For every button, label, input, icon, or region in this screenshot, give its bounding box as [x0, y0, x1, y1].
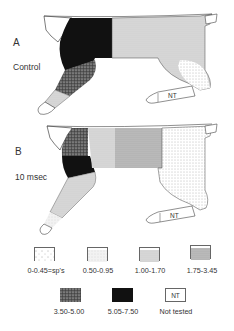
legend-label: 0.50-0.95	[76, 266, 120, 275]
legend-swatch-very-light	[87, 247, 108, 261]
cat-diagram-b: NT	[0, 120, 234, 240]
legend-swatch-solid-black	[112, 288, 133, 302]
legend-swatch-medium	[190, 245, 211, 259]
cat-diagram-a: NT	[0, 0, 234, 120]
legend-label: 1.75-3.45	[180, 266, 224, 275]
legend: 0-0.45=sp's 0.50-0.95 1.00-1.70 1.75-3.4…	[0, 240, 234, 331]
legend-label: Not tested	[150, 307, 202, 316]
hindleg-nt-a: NT	[168, 92, 177, 99]
legend-swatch-not-tested: NT	[165, 288, 186, 302]
legend-swatch-dark-mottled	[60, 288, 81, 302]
hindleg-nt-b: NT	[170, 212, 179, 219]
legend-label: 1.00-1.70	[128, 266, 172, 275]
legend-label: 0-0.45=sp's	[18, 266, 74, 275]
legend-label: 3.50-5.00	[46, 307, 92, 316]
legend-swatch-sparse-dots	[34, 247, 55, 261]
legend-label: 5.05-7.50	[100, 307, 146, 316]
legend-swatch-light	[139, 247, 160, 261]
